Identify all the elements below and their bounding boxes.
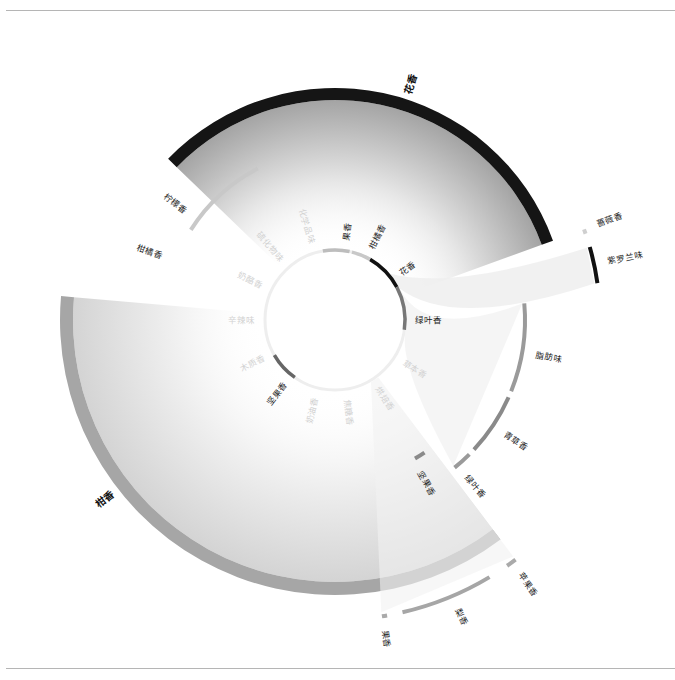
outer-arc-label: 脂肪味 bbox=[535, 350, 563, 365]
outer-arc[interactable] bbox=[507, 560, 515, 566]
outer-arc-label: 蔷薇香 bbox=[595, 210, 624, 229]
group-label: 花香 bbox=[402, 72, 420, 95]
bottom-divider bbox=[6, 668, 675, 669]
outer-arc-label: 紫罗兰味 bbox=[607, 249, 644, 266]
outer-arc-label: 梨香 bbox=[454, 607, 470, 627]
inner-ring bbox=[265, 250, 405, 390]
outer-arc[interactable] bbox=[584, 229, 586, 233]
outer-arc-label: 苹果香 bbox=[516, 571, 540, 599]
outer-arc[interactable] bbox=[382, 615, 387, 616]
outer-arc-label: 果香 bbox=[380, 629, 393, 648]
flavor-wheel-diagram: 花香柑香蔷薇香紫罗兰味脂肪味青草香绿叶香坚果香柠檬香柑橘香苹果香梨香果香果香柑橘… bbox=[0, 0, 675, 680]
outer-arc-label: 青草香 bbox=[502, 430, 530, 453]
inner-ring-label[interactable]: 辛辣味 bbox=[228, 315, 255, 325]
inner-ring-segment[interactable] bbox=[323, 250, 350, 252]
outer-arc[interactable] bbox=[191, 194, 221, 230]
outer-arc-label: 柠檬香 bbox=[162, 192, 190, 216]
group-label: 柑香 bbox=[93, 488, 116, 510]
inner-ring-label[interactable]: 奶酪香 bbox=[236, 270, 265, 290]
inner-ring-label[interactable]: 绿叶香 bbox=[415, 315, 442, 325]
outer-arc-label: 柑橘香 bbox=[135, 243, 164, 262]
